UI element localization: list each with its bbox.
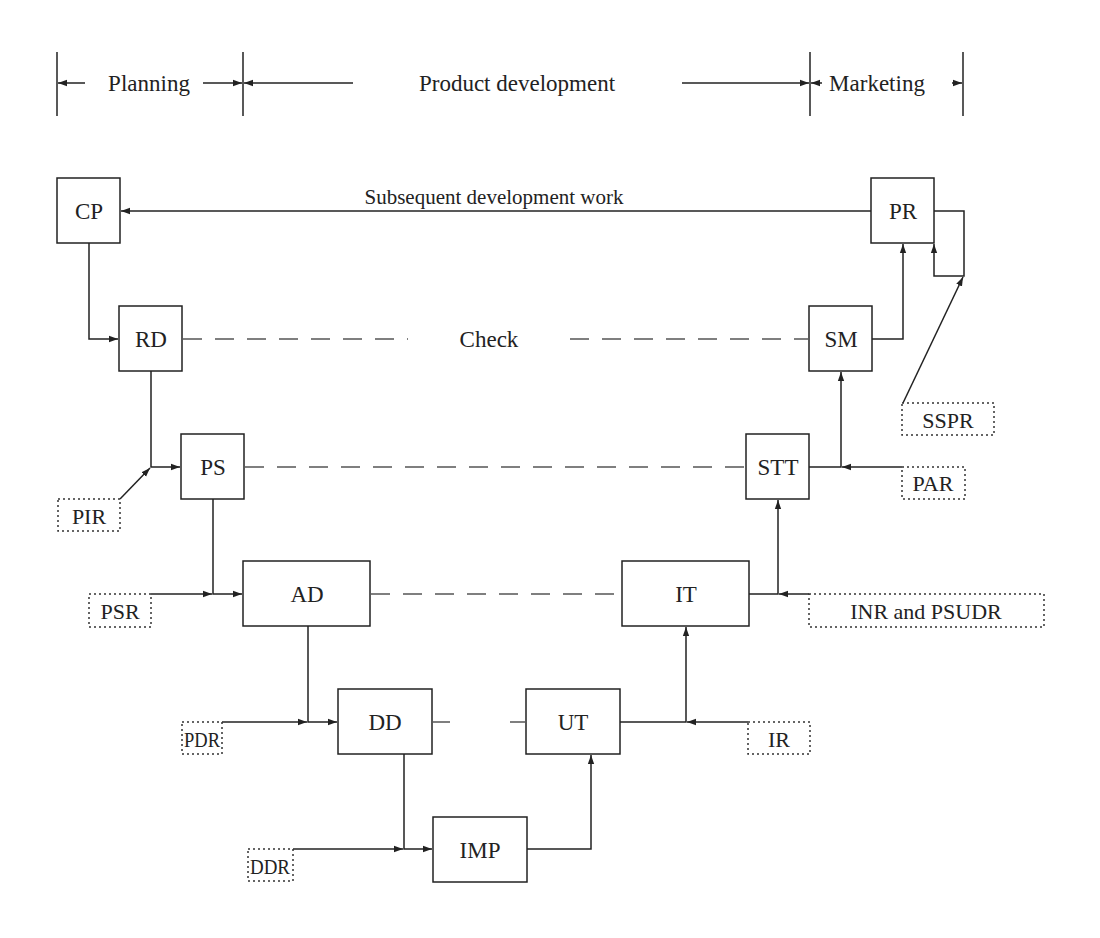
node-sm-label: SM — [824, 327, 857, 352]
review-psr-label: PSR — [100, 599, 139, 624]
v-model-diagram: Planning Product development Marketing — [0, 0, 1100, 938]
node-ut-label: UT — [558, 710, 589, 735]
node-ad-label: AD — [290, 582, 323, 607]
check-lines — [183, 339, 808, 722]
review-par-label: PAR — [913, 471, 954, 496]
node-imp-label: IMP — [460, 838, 501, 863]
phase-marketing-label: Marketing — [829, 71, 925, 96]
review-ir-label: IR — [768, 727, 790, 752]
review-inr-psudr-label: INR and PSUDR — [850, 599, 1002, 624]
node-pr-label: PR — [889, 199, 918, 224]
phase-product-development-label: Product development — [419, 71, 616, 96]
node-cp-label: CP — [75, 199, 103, 224]
review-ddr-label: DDR — [250, 854, 290, 879]
process-nodes — [57, 178, 934, 882]
review-pdr-label: PDR — [184, 727, 220, 752]
review-pir-label: PIR — [72, 504, 107, 529]
node-ps-label: PS — [200, 455, 226, 480]
node-dd-label: DD — [368, 710, 401, 735]
feedback-label: Subsequent development work — [365, 185, 624, 209]
check-label: Check — [460, 327, 519, 352]
node-stt-label: STT — [758, 455, 799, 480]
node-rd-label: RD — [135, 327, 167, 352]
node-it-label: IT — [675, 582, 697, 607]
phase-planning-label: Planning — [108, 71, 190, 96]
review-sspr-label: SSPR — [922, 408, 974, 433]
